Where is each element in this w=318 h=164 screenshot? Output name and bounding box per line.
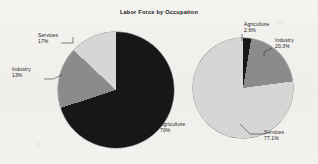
left-pie-chart [58, 32, 174, 148]
right-services-pct: 77.1% [264, 135, 284, 141]
right-services-name: Services [264, 129, 284, 135]
right-industry-name: Industry [275, 37, 294, 43]
right-agriculture-pct: 2.6% [244, 27, 269, 33]
left-pie-wedges [58, 32, 174, 148]
chart-title: Labor Force by Occupation [0, 9, 318, 15]
left-industry-label: Industry 13% [12, 66, 31, 79]
right-industry-pct: 20.3% [275, 43, 294, 49]
right-agriculture-label: Agriculture 2.6% [244, 21, 269, 34]
left-services-pct: 17% [38, 38, 58, 44]
right-services-label: Services 77.1% [264, 129, 284, 142]
left-services-name: Services [38, 32, 58, 38]
right-agriculture-name: Agriculture [244, 21, 269, 27]
right-pie-chart [193, 38, 293, 138]
left-industry-pct: 13% [12, 72, 31, 78]
right-industry-label: Industry 20.3% [275, 37, 294, 50]
left-agriculture-label: Agriculture 70% [160, 121, 185, 134]
right-pie-wedges [193, 38, 293, 138]
left-industry-name: Industry [12, 66, 31, 72]
left-services-label: Services 17% [38, 32, 58, 45]
left-agriculture-pct: 70% [160, 127, 185, 133]
left-agriculture-name: Agriculture [160, 121, 185, 127]
